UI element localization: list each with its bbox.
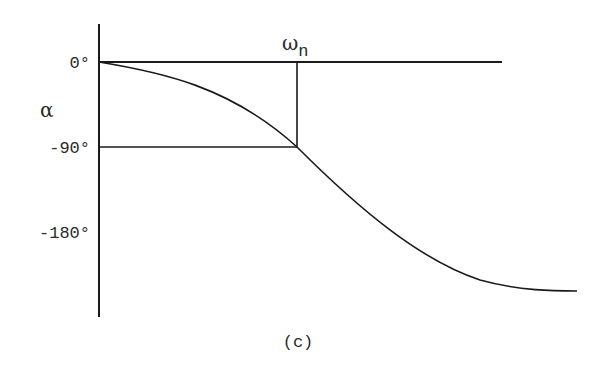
figure-caption: (c): [283, 333, 314, 352]
phase-curve: [99, 62, 577, 291]
tick-label-minus-90: -90°: [49, 139, 90, 158]
omega-subscript: n: [298, 42, 308, 61]
omega-symbol: ω: [282, 31, 298, 55]
tick-label-minus-180: -180°: [39, 224, 90, 243]
tick-label-0: 0°: [70, 54, 90, 73]
phase-diagram: 0° -90° -180° α ωn (c): [0, 0, 602, 366]
omega-label: ωn: [282, 31, 309, 61]
y-axis-label-alpha: α: [40, 98, 54, 122]
